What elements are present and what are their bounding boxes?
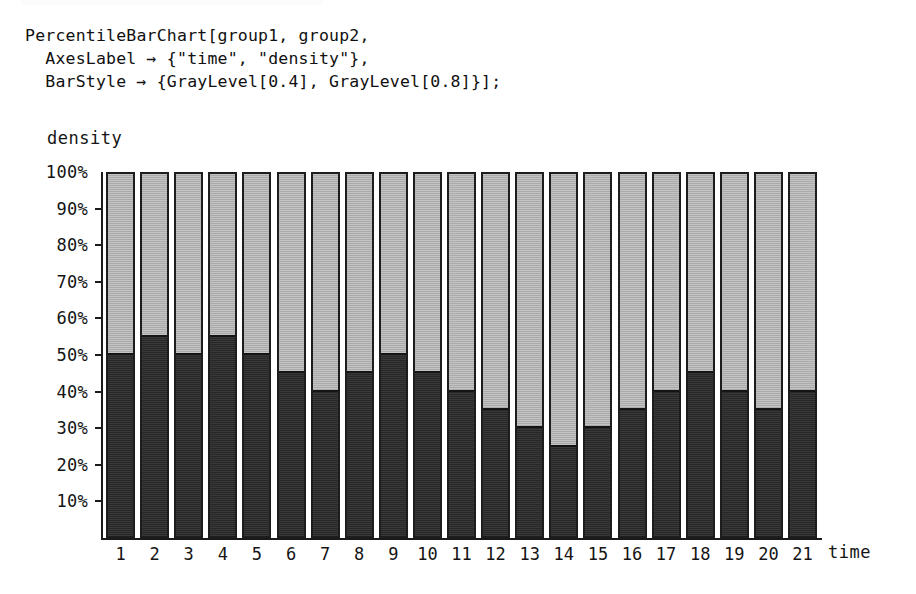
bar: [242, 172, 271, 538]
x-axis-tick-label: 16: [622, 544, 642, 564]
x-axis-tick-label: 4: [218, 544, 228, 564]
bar-segment-lower: [483, 408, 508, 536]
y-axis-title: density: [47, 128, 122, 148]
x-axis-tick-label: 21: [792, 544, 812, 564]
mathematica-code-block: PercentileBarChart[group1, group2, AxesL…: [25, 24, 501, 93]
x-axis-tick-label: 13: [519, 544, 539, 564]
x-axis-tick-label: 8: [354, 544, 364, 564]
bar-segment-lower: [449, 390, 474, 536]
bars-layer: [0, 160, 916, 580]
x-axis-tick-label: 11: [451, 544, 471, 564]
bar-segment-lower: [279, 371, 304, 536]
x-axis-tick-label: 14: [554, 544, 574, 564]
bar: [583, 172, 612, 538]
bar-segment-lower: [347, 371, 372, 536]
code-line: PercentileBarChart[group1, group2,: [25, 24, 501, 47]
x-axis-tick-label: 10: [417, 544, 437, 564]
percentile-bar-chart: 100%90%80%70%60%50%40%30%20%10% 12345678…: [0, 160, 916, 580]
x-axis-tick-label: 5: [252, 544, 262, 564]
bar-segment-lower: [756, 408, 781, 536]
bar: [311, 172, 340, 538]
bar: [652, 172, 681, 538]
bar-segment-lower: [108, 353, 133, 536]
x-axis-tick-label: 19: [724, 544, 744, 564]
bar: [345, 172, 374, 538]
x-axis-tick-label: 15: [588, 544, 608, 564]
x-axis-tick-label: 2: [149, 544, 159, 564]
bar: [277, 172, 306, 538]
x-axis-tick-label: 17: [656, 544, 676, 564]
bar-segment-lower: [244, 353, 269, 536]
bar-segment-lower: [551, 445, 576, 537]
bar: [754, 172, 783, 538]
bar-segment-lower: [654, 390, 679, 536]
bar-segment-lower: [142, 335, 167, 536]
bar: [549, 172, 578, 538]
bar-segment-lower: [790, 390, 815, 536]
bar: [106, 172, 135, 538]
x-axis-tick-label: 6: [286, 544, 296, 564]
x-axis-tick-label: 18: [690, 544, 710, 564]
x-axis-tick-label: 9: [388, 544, 398, 564]
bar-segment-lower: [415, 371, 440, 536]
x-axis-tick-label: 12: [485, 544, 505, 564]
bar-segment-lower: [381, 353, 406, 536]
bar-segment-lower: [517, 426, 542, 536]
bar: [174, 172, 203, 538]
bar: [720, 172, 749, 538]
bar: [686, 172, 715, 538]
bar-segment-lower: [585, 426, 610, 536]
bar: [413, 172, 442, 538]
code-line: AxesLabel → {"time", "density"},: [25, 47, 501, 70]
bar-segment-lower: [176, 353, 201, 536]
bar-segment-lower: [722, 390, 747, 536]
bar: [379, 172, 408, 538]
x-axis-tick-label: 3: [184, 544, 194, 564]
bar: [208, 172, 237, 538]
bar: [515, 172, 544, 538]
bar-segment-lower: [688, 371, 713, 536]
bar: [618, 172, 647, 538]
top-edge-artifact: [22, 0, 322, 5]
x-axis-tick-label: 20: [758, 544, 778, 564]
bar: [447, 172, 476, 538]
bar: [481, 172, 510, 538]
code-line: BarStyle → {GrayLevel[0.4], GrayLevel[0.…: [25, 70, 501, 93]
bar-segment-lower: [313, 390, 338, 536]
x-axis-title: time: [828, 542, 871, 562]
x-axis-tick-label: 7: [320, 544, 330, 564]
x-axis-tick-label: 1: [115, 544, 125, 564]
bar-segment-lower: [210, 335, 235, 536]
bar: [788, 172, 817, 538]
bar-segment-lower: [620, 408, 645, 536]
bar: [140, 172, 169, 538]
